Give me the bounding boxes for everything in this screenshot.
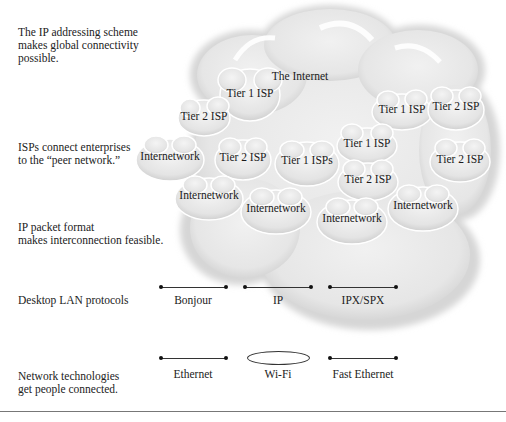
isps-line-2: to the “peer network.”	[18, 154, 130, 167]
cloud-label-tier2-isp: Tier 2 ISP	[433, 100, 480, 112]
endpoint-dot	[159, 285, 163, 289]
link-line	[161, 287, 226, 288]
endpoint-dot	[328, 356, 332, 360]
protocol-label: IP	[273, 294, 283, 306]
addressing-line-1: The IP addressing scheme	[18, 26, 139, 39]
cloud-label-tier1-isp: Tier 1 ISP	[227, 87, 274, 99]
wifi-ellipse-icon	[247, 351, 310, 365]
packet-line-2: makes interconnection feasible.	[18, 234, 163, 247]
addressing-line-3: possible.	[18, 52, 139, 65]
protocol-label: IPX/SPX	[342, 294, 385, 306]
cloud-label-tier2-isp: Tier 2 ISP	[181, 110, 228, 122]
isps-line-1: ISPs connect enterprises	[18, 141, 130, 154]
cloud-label-tier2-isp: Tier 2 ISP	[345, 173, 392, 185]
cloud-label-internetwork: Internetwork	[140, 150, 199, 162]
cloud-label-tier1-isps: Tier 1 ISPs	[281, 154, 332, 166]
technology-label: Wi-Fi	[264, 368, 291, 380]
cloud-label-tier1-isp: Tier 1 ISP	[344, 137, 391, 149]
technology-label: Fast Ethernet	[333, 368, 394, 380]
addressing-line-2: makes global connectivity	[18, 39, 139, 52]
endpoint-dot	[159, 356, 163, 360]
isps-description: ISPs connect enterprises to the “peer ne…	[18, 141, 130, 167]
endpoint-dot	[309, 285, 313, 289]
packet-line-1: IP packet format	[18, 221, 163, 234]
endpoint-dot	[394, 356, 398, 360]
technologies-description: Network technologies get people connecte…	[18, 370, 119, 396]
link-line	[330, 358, 396, 359]
cloud-label-internetwork: Internetwork	[322, 212, 381, 224]
cloud-label-internetwork: Internetwork	[246, 202, 305, 214]
addressing-description: The IP addressing scheme makes global co…	[18, 26, 139, 65]
lan-protocols-label: Desktop LAN protocols	[18, 294, 129, 307]
packet-description: IP packet format makes interconnection f…	[18, 221, 163, 247]
internet-label: The Internet	[272, 70, 329, 82]
cloud-label-internetwork: Internetwork	[393, 199, 452, 211]
technologies-line-1: Network technologies	[18, 370, 119, 383]
lan-protocols-text: Desktop LAN protocols	[18, 294, 129, 307]
protocol-label: Bonjour	[174, 294, 212, 306]
link-line	[330, 287, 396, 288]
link-line	[161, 358, 226, 359]
endpoint-dot	[224, 356, 228, 360]
technologies-line-2: get people connected.	[18, 383, 119, 396]
endpoint-dot	[243, 285, 247, 289]
endpoint-dot	[394, 285, 398, 289]
caption-divider	[0, 411, 506, 412]
endpoint-dot	[328, 285, 332, 289]
cloud-label-tier2-isp: Tier 2 ISP	[220, 151, 267, 163]
cloud-label-tier2-isp: Tier 2 ISP	[437, 153, 484, 165]
cloud-label-tier1-isp: Tier 1 ISP	[379, 103, 426, 115]
technology-label: Ethernet	[174, 368, 213, 380]
cloud-label-internetwork: Internetwork	[179, 189, 238, 201]
endpoint-dot	[224, 285, 228, 289]
link-line	[245, 287, 311, 288]
